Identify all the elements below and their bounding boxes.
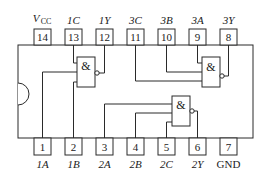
svg-text:2C: 2C — [160, 158, 174, 170]
svg-text:4: 4 — [133, 141, 139, 153]
svg-text:13: 13 — [68, 31, 80, 43]
svg-text:7: 7 — [226, 141, 232, 153]
top-pin-row: 14 V CC 13 1C 12 1Y 11 3C 10 3B 9 3A — [33, 12, 237, 45]
svg-text:10: 10 — [161, 31, 173, 43]
pin-8: 8 3Y — [220, 14, 237, 45]
ic-pinout-diagram: 14 V CC 13 1C 12 1Y 11 3C 10 3B 9 3A — [0, 0, 265, 182]
svg-text:11: 11 — [130, 31, 141, 43]
svg-text:6: 6 — [195, 141, 201, 153]
svg-text:1B: 1B — [67, 158, 80, 170]
pin-4: 4 2B — [127, 138, 144, 170]
inverter-bubble — [190, 109, 194, 113]
pin-3: 3 2A — [96, 138, 113, 170]
svg-text:&: & — [176, 98, 186, 112]
pin-10: 10 3B — [158, 14, 175, 45]
inverter-bubble — [95, 71, 99, 75]
pin-7: 7 GND — [217, 138, 241, 170]
pin-12: 12 1Y — [96, 14, 113, 45]
svg-text:1Y: 1Y — [99, 14, 113, 26]
svg-text:1A: 1A — [36, 158, 49, 170]
svg-text:&: & — [81, 59, 91, 73]
svg-text:2: 2 — [71, 141, 77, 153]
svg-text:2A: 2A — [98, 158, 111, 170]
svg-text:12: 12 — [99, 31, 110, 43]
svg-text:3B: 3B — [159, 14, 173, 26]
svg-text:3: 3 — [102, 141, 108, 153]
svg-text:14: 14 — [37, 31, 49, 43]
svg-text:CC: CC — [41, 17, 52, 26]
svg-text:3A: 3A — [190, 14, 204, 26]
bottom-pin-row: 1 1A 2 1B 3 2A 4 2B 5 2C 6 2Y — [34, 138, 240, 170]
svg-text:1C: 1C — [67, 14, 81, 26]
svg-text:3C: 3C — [128, 14, 143, 26]
svg-text:2Y: 2Y — [192, 158, 206, 170]
pin-14: 14 V CC — [33, 12, 52, 45]
svg-text:8: 8 — [226, 31, 232, 43]
pin-5: 5 2C — [158, 138, 175, 170]
pin-11: 11 3C — [127, 14, 144, 45]
svg-text:1: 1 — [40, 141, 46, 153]
svg-text:&: & — [206, 60, 216, 74]
svg-text:2B: 2B — [129, 158, 142, 170]
pin-1: 1 1A — [34, 138, 51, 170]
pin-13: 13 1C — [65, 14, 82, 45]
svg-text:9: 9 — [195, 31, 201, 43]
inverter-bubble — [220, 74, 224, 78]
svg-text:5: 5 — [164, 141, 170, 153]
pin-label-vcc: V — [33, 12, 41, 24]
pin-9: 9 3A — [189, 14, 206, 45]
svg-text:3Y: 3Y — [222, 14, 237, 26]
pin-2: 2 1B — [65, 138, 82, 170]
pin-6: 6 2Y — [189, 138, 206, 170]
svg-text:GND: GND — [217, 158, 241, 170]
